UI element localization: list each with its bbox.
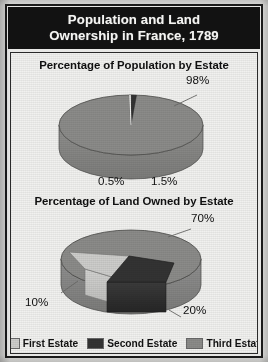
population-pie-chart (41, 73, 231, 188)
land-chart-title: Percentage of Land Owned by Estate (11, 195, 257, 207)
legend-item-first-estate: First Estate (10, 338, 78, 349)
land-label-third: 70% (191, 211, 214, 224)
legend-label-second-estate: Second Estate (107, 338, 177, 349)
land-label-first: 10% (25, 295, 48, 308)
figure-title-line-2: Ownership in France, 1789 (49, 28, 219, 43)
legend-swatch-icon-third-estate (186, 338, 203, 349)
legend-item-third-estate: Third Estate (186, 338, 258, 349)
legend-label-first-estate: First Estate (23, 338, 78, 349)
population-label-second: 1.5% (151, 174, 177, 187)
legend: First Estate Second Estate Third Estate (11, 338, 257, 349)
legend-label-third-estate: Third Estate (206, 338, 258, 349)
population-label-third: 98% (186, 73, 209, 86)
figure-title-line-1: Population and Land (68, 12, 200, 27)
figure-root: Population and Land Ownership in France,… (0, 0, 268, 362)
figure-title: Population and Land Ownership in France,… (49, 12, 219, 44)
legend-swatch-icon-second-estate (87, 338, 104, 349)
legend-item-second-estate: Second Estate (87, 338, 177, 349)
charts-panel: Percentage of Population by Estate 9 (10, 52, 258, 354)
population-chart-title: Percentage of Population by Estate (11, 59, 257, 71)
legend-swatch-icon-first-estate (10, 338, 20, 349)
land-label-second: 20% (183, 303, 206, 316)
figure-title-bar: Population and Land Ownership in France,… (8, 7, 260, 49)
population-label-first: 0.5% (98, 174, 124, 187)
land-pie-chart (41, 211, 231, 336)
